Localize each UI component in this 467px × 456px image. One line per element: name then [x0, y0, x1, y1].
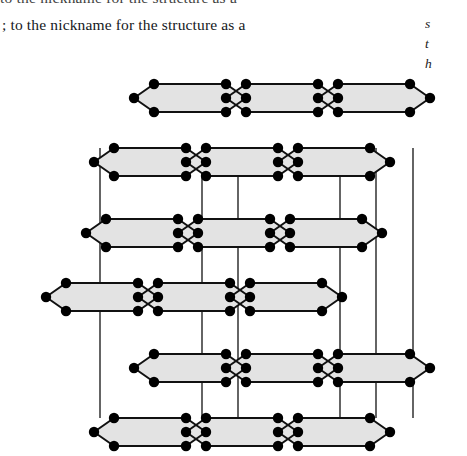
top-layer [89, 79, 435, 181]
carbon-atom [265, 228, 275, 238]
carbon-atom [293, 441, 303, 451]
right-column-fragments: s t h [425, 14, 467, 74]
carbon-atom [241, 107, 251, 117]
carbon-atom [245, 306, 255, 316]
carbon-atom [293, 143, 303, 153]
carbon-atom [181, 171, 191, 181]
carbon-atom [365, 143, 375, 153]
carbon-atom [181, 143, 191, 153]
carbon-atom [153, 306, 163, 316]
carbon-atom [245, 292, 255, 302]
carbon-atom [201, 441, 211, 451]
carbon-atom [173, 242, 183, 252]
carbon-atom [337, 292, 347, 302]
carbon-atom [273, 171, 283, 181]
carbon-atom [293, 171, 303, 181]
carbon-atom [129, 93, 139, 103]
carbon-atom [357, 242, 367, 252]
carbon-atom [273, 143, 283, 153]
carbon-atom [285, 228, 295, 238]
carbon-atom [41, 292, 51, 302]
carbon-atom [133, 278, 143, 288]
carbon-atom [61, 278, 71, 288]
carbon-atom [333, 349, 343, 359]
carbon-atom [241, 349, 251, 359]
carbon-atom [317, 278, 327, 288]
carbon-atom [61, 306, 71, 316]
carbon-atom [193, 228, 203, 238]
carbon-atom [385, 427, 395, 437]
carbon-atom [221, 377, 231, 387]
carbon-atom [425, 93, 435, 103]
carbon-atom [377, 228, 387, 238]
carbon-atom [221, 349, 231, 359]
carbon-atom [357, 214, 367, 224]
carbon-atom [333, 107, 343, 117]
carbon-atom [221, 93, 231, 103]
carbon-atom [221, 79, 231, 89]
carbon-atom [265, 214, 275, 224]
carbon-atom [265, 242, 275, 252]
carbon-atom [181, 413, 191, 423]
carbon-atom [133, 292, 143, 302]
carbon-atom [201, 413, 211, 423]
carbon-atom [149, 107, 159, 117]
carbon-atom [225, 306, 235, 316]
carbon-atom [273, 157, 283, 167]
cut-off-text-above: to the nickname for the structure as a [0, 0, 400, 7]
carbon-atom [273, 427, 283, 437]
carbon-atom [153, 278, 163, 288]
carbon-atom [293, 427, 303, 437]
carbon-atom [285, 242, 295, 252]
carbon-atom [153, 292, 163, 302]
carbon-atom [313, 107, 323, 117]
carbon-atom [181, 441, 191, 451]
carbon-atom [405, 349, 415, 359]
carbon-atom [201, 427, 211, 437]
carbon-atom [293, 413, 303, 423]
carbon-atom [109, 413, 119, 423]
carbon-atom [221, 107, 231, 117]
carbon-atom [181, 157, 191, 167]
carbon-atom [365, 171, 375, 181]
carbon-atom [273, 413, 283, 423]
carbon-atom [273, 441, 283, 451]
carbon-atom [201, 157, 211, 167]
carbon-atom [109, 441, 119, 451]
carbon-atom [317, 306, 327, 316]
carbon-atom [129, 363, 139, 373]
graphite-structure-figure [0, 70, 467, 456]
carbon-atom [333, 363, 343, 373]
carbon-atom [285, 214, 295, 224]
carbon-atom [333, 79, 343, 89]
carbon-atom [365, 441, 375, 451]
middle-layer [41, 214, 387, 316]
carbon-atom [109, 171, 119, 181]
carbon-atom [313, 363, 323, 373]
graphite-svg [0, 70, 467, 456]
carbon-atom [173, 228, 183, 238]
carbon-atom [293, 157, 303, 167]
carbon-atom [221, 363, 231, 373]
figure-page: to the nickname for the structure as a ;… [0, 0, 467, 456]
carbon-atom [333, 93, 343, 103]
carbon-atom [201, 171, 211, 181]
carbon-atom [193, 242, 203, 252]
carbon-atom [201, 143, 211, 153]
carbon-atom [149, 349, 159, 359]
carbon-atom [149, 377, 159, 387]
carbon-atom [241, 363, 251, 373]
carbon-atom [241, 377, 251, 387]
carbon-atom [405, 377, 415, 387]
right-fragment-2: t [425, 34, 467, 54]
carbon-atom [89, 157, 99, 167]
body-text-line: ; to the nickname for the structure as a [2, 16, 412, 34]
bottom-layer [89, 349, 435, 451]
right-fragment-1: s [425, 14, 467, 34]
carbon-atom [101, 242, 111, 252]
carbon-atom [101, 214, 111, 224]
carbon-atom [81, 228, 91, 238]
carbon-atom [425, 363, 435, 373]
carbon-atom [181, 427, 191, 437]
carbon-atom [245, 278, 255, 288]
